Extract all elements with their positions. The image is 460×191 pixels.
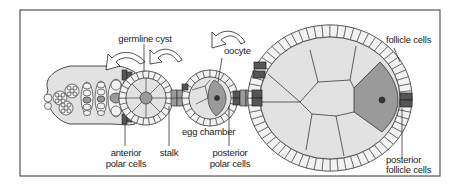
ovariole-diagram: germline cyst oocyte follicle cells egg … <box>0 0 460 191</box>
label-anterior-polar-cells-2: polar cells <box>106 158 147 169</box>
follicle-cell <box>143 71 150 78</box>
label-egg-chamber: egg chamber <box>182 126 235 137</box>
follicle-cell <box>330 159 338 171</box>
label-stalk: stalk <box>160 147 179 158</box>
germline-cyst <box>119 71 173 125</box>
large-egg-chamber <box>248 25 412 171</box>
label-anterior-polar-cells-1: anterior <box>111 147 142 158</box>
stalk <box>171 90 183 106</box>
label-posterior-polar-cells-2: polar cells <box>210 158 251 169</box>
follicle-cell <box>143 118 150 125</box>
label-follicle-cells: follicle cells <box>386 34 432 45</box>
label-posterior-polar-cells-1: posterior <box>212 147 247 158</box>
label-posterior-follicle-cells-2: follicle cells <box>386 164 432 175</box>
label-germline-cyst: germline cyst <box>118 33 172 44</box>
posterior-follicle-cells <box>400 93 412 107</box>
label-oocyte: oocyte <box>224 45 251 56</box>
region-2-cysts <box>81 79 124 117</box>
follicle-cell <box>322 25 330 37</box>
